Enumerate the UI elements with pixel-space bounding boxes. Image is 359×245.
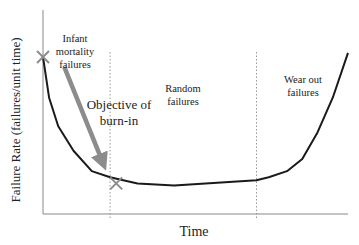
- region-label-line: mortality: [56, 46, 95, 57]
- series-group: [43, 53, 348, 186]
- annotations: Objective ofburn-in: [64, 67, 152, 163]
- region-label-line: Infant: [62, 33, 87, 44]
- region-label-line: Wear out: [284, 74, 322, 85]
- annotation-line: Objective of: [87, 97, 152, 112]
- region-label-3: Wear outfailures: [284, 74, 322, 98]
- region-label-line: failures: [167, 96, 199, 107]
- phase-dividers: [110, 52, 256, 220]
- region-label-line: failures: [287, 87, 319, 98]
- region-label-2: Randomfailures: [165, 83, 201, 107]
- y-axis-label: Failure Rate (failures/unit time): [8, 38, 23, 203]
- annotation-line: burn-in: [100, 113, 139, 128]
- region-label-line: Random: [165, 83, 201, 94]
- annotation-label: Objective ofburn-in: [87, 97, 152, 128]
- region-label-line: failures: [59, 59, 91, 70]
- burn-in-arrow: [64, 67, 103, 163]
- series-line-1: [43, 53, 348, 186]
- bathtub-chart: Objective ofburn-in Infantmortalityfailu…: [0, 0, 359, 245]
- x-axis-label: Time: [179, 224, 208, 239]
- region-labels: InfantmortalityfailuresRandomfailuresWea…: [56, 33, 322, 107]
- region-label-1: Infantmortalityfailures: [56, 33, 95, 70]
